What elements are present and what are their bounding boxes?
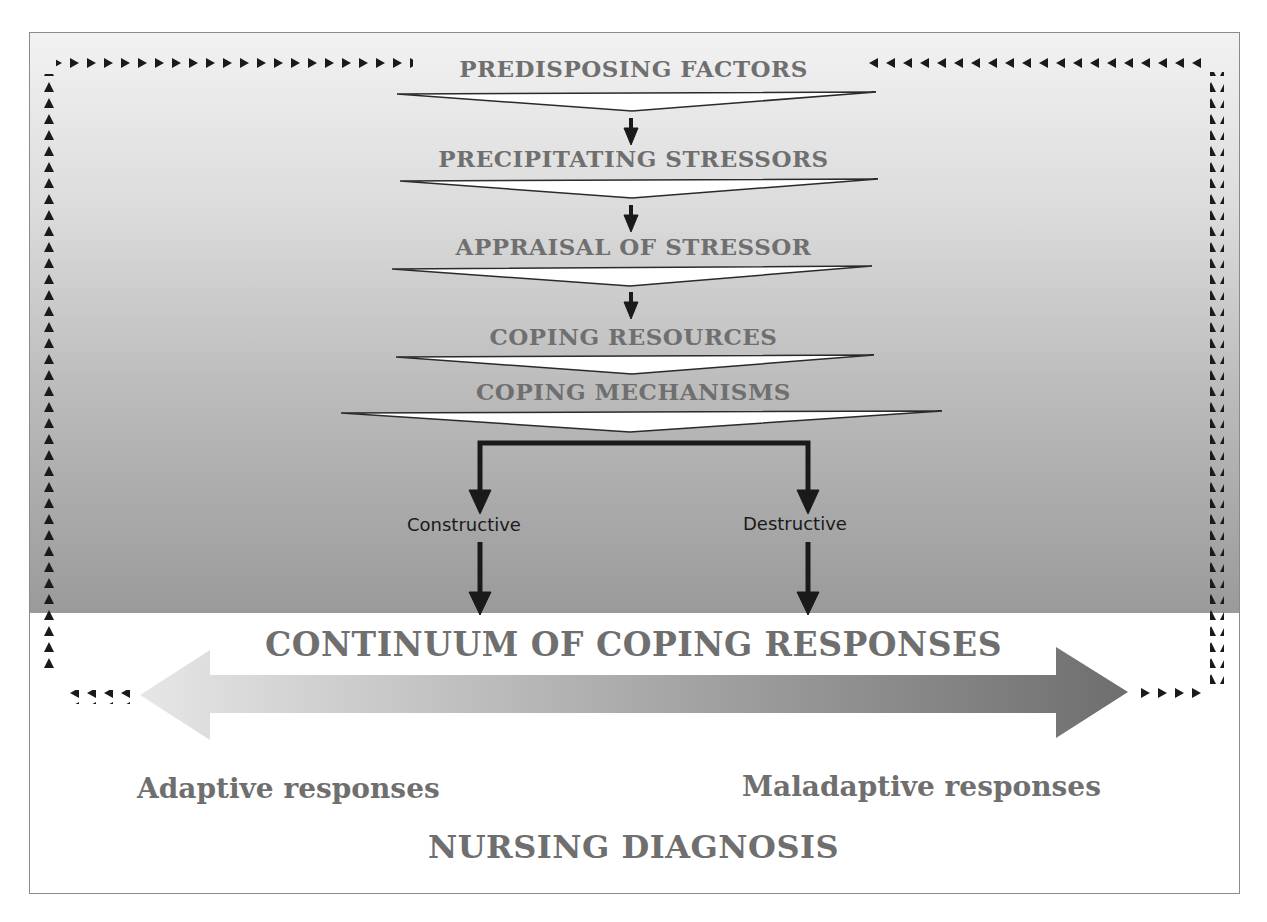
chevron-appraisal: [392, 266, 872, 286]
chevron-precipitating: [400, 179, 878, 198]
stage-coping-mechanisms: COPING MECHANISMS: [0, 378, 1267, 405]
stage-coping-resources: COPING RESOURCES: [0, 323, 1267, 350]
down-arrow-icon: [624, 205, 638, 232]
maladaptive-responses-label: Maladaptive responses: [742, 770, 1101, 803]
left-pointing-triangles-icon: [64, 690, 132, 704]
chevron-resources: [396, 355, 874, 374]
down-arrow-icon: [624, 292, 638, 319]
continuum-title: CONTINUUM OF COPING RESPONSES: [0, 625, 1267, 664]
stage-appraisal-of-stressor: APPRAISAL OF STRESSOR: [0, 233, 1267, 260]
down-arrow-icon: [469, 490, 491, 514]
stage-predisposing-factors: PREDISPOSING FACTORS: [0, 55, 1267, 82]
down-arrow-icon: [797, 490, 819, 514]
stage-precipitating-stressors: PRECIPITATING STRESSORS: [0, 145, 1267, 172]
right-pointing-triangles-icon: [1140, 686, 1208, 700]
adaptive-responses-label: Adaptive responses: [137, 772, 440, 805]
chevron-mechanisms: [341, 411, 942, 432]
nursing-diagnosis-label: NURSING DIAGNOSIS: [0, 828, 1267, 866]
branch-destructive: Destructive: [743, 513, 847, 534]
down-arrow-icon: [624, 118, 638, 145]
branch-constructive: Constructive: [407, 514, 521, 535]
down-arrow-icon: [469, 592, 491, 615]
down-arrow-icon: [797, 592, 819, 615]
chevron-predisposing: [397, 92, 876, 111]
